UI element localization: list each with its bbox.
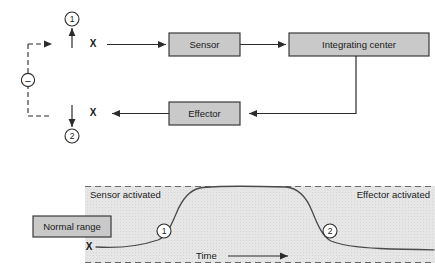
marker-1-top: 1	[65, 12, 79, 26]
arrow-integrating-center-to-effector	[249, 56, 356, 114]
marker-2-graph-label: 2	[328, 226, 333, 236]
label-time-axis: Time	[196, 250, 217, 261]
box-integrating-center-label: Integrating center	[322, 39, 396, 50]
graph-axis-variable-x: X	[86, 241, 93, 252]
negative-feedback-icon: −	[21, 73, 34, 86]
label-effector-activated: Effector activated	[357, 189, 430, 200]
marker-2-graph: 2	[323, 224, 337, 238]
box-sensor-label: Sensor	[189, 39, 219, 50]
normal-range-box: Normal range	[33, 216, 111, 237]
variable-x-top: X	[90, 38, 97, 49]
box-integrating-center: Integrating center	[289, 33, 429, 56]
box-sensor: Sensor	[169, 33, 240, 56]
figure-container: − 1 X 2 X Sensor Int	[0, 0, 435, 270]
variable-x-bottom: X	[90, 107, 97, 118]
label-sensor-activated: Sensor activated	[90, 189, 161, 200]
marker-2-top-label: 2	[70, 131, 75, 141]
negative-feedback-label: −	[25, 75, 31, 87]
marker-2-top: 2	[65, 129, 79, 143]
box-effector: Effector	[169, 102, 240, 125]
figure-svg: − 1 X 2 X Sensor Int	[0, 0, 435, 270]
box-effector-label: Effector	[188, 108, 221, 119]
normal-range-box-label: Normal range	[43, 221, 101, 232]
marker-1-top-label: 1	[70, 14, 75, 24]
marker-1-graph-label: 1	[162, 226, 167, 236]
marker-1-graph: 1	[157, 224, 171, 238]
